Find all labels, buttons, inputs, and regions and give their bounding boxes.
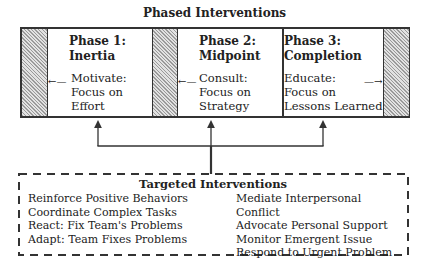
list-item: Reinforce Positive Behaviors	[28, 192, 188, 206]
list-item: Respond to Urgent Problem	[236, 246, 408, 260]
list-item: Advocate Personal Support	[236, 219, 408, 233]
list-item: React: Fix Team's Problems	[28, 219, 188, 233]
targeted-title: Targeted Interventions	[18, 177, 408, 191]
list-item: Adapt: Team Fixes Problems	[28, 233, 188, 247]
list-item: Coordinate Complex Tasks	[28, 206, 188, 220]
targeted-right-list: Mediate Interpersonal Conflict Advocate …	[236, 192, 408, 260]
list-item: Mediate Interpersonal Conflict	[236, 192, 408, 219]
targeted-interventions-box: Targeted Interventions Reinforce Positiv…	[18, 173, 408, 255]
targeted-left-list: Reinforce Positive Behaviors Coordinate …	[28, 192, 188, 246]
list-item: Monitor Emergent Issue	[236, 233, 408, 247]
